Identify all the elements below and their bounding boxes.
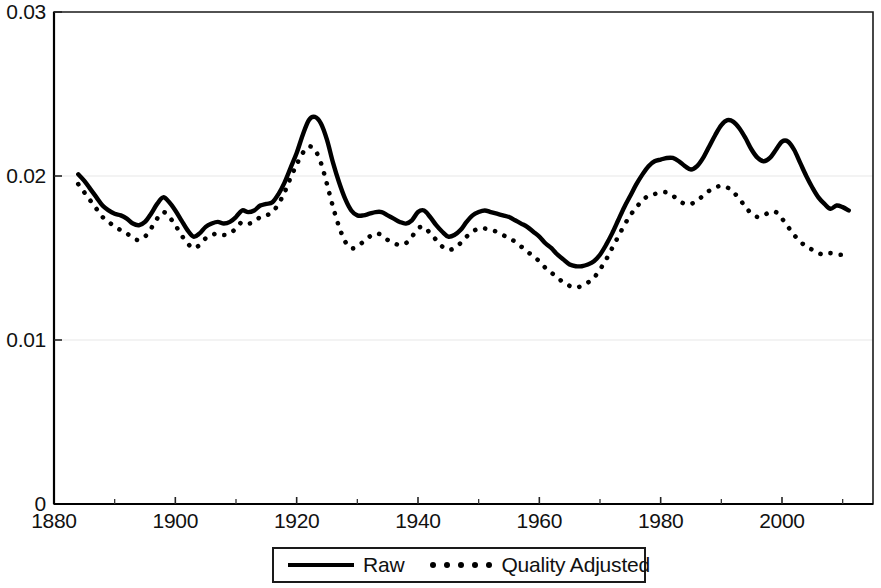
gridlines bbox=[54, 176, 873, 340]
chart-legend: Raw Quality Adjusted bbox=[272, 547, 646, 583]
plot-frame bbox=[54, 12, 873, 504]
legend-solid-line-icon bbox=[288, 563, 354, 567]
series-line-raw bbox=[78, 117, 848, 267]
legend-item-quality-adjusted: Quality Adjusted bbox=[430, 549, 650, 581]
plot-area bbox=[0, 0, 881, 588]
legend-dotted-line-icon bbox=[430, 562, 492, 569]
legend-label-quality-adjusted: Quality Adjusted bbox=[501, 553, 650, 577]
axis-ticks bbox=[54, 12, 843, 504]
chart-figure: 0.03 0.02 0.01 0 1880 1900 1920 1940 196… bbox=[0, 0, 881, 588]
series-line-quality-adjusted bbox=[78, 146, 842, 287]
legend-item-raw: Raw bbox=[288, 549, 404, 581]
legend-label-raw: Raw bbox=[363, 553, 404, 577]
